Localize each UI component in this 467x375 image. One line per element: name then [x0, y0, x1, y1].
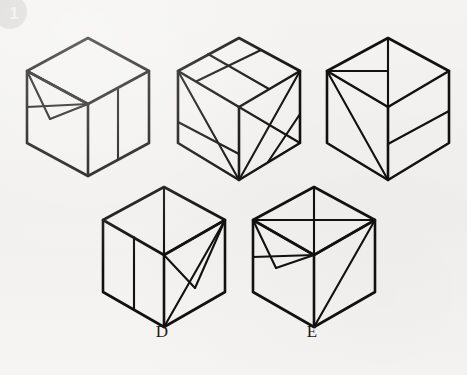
figure-canvas: 1: [0, 0, 467, 375]
cube-c-right-band: [388, 111, 449, 144]
cube-b-left-diagonal: [178, 71, 239, 180]
cube-d-right-triangle-base: [164, 255, 195, 288]
cube-e-left-lower-diagonal: [253, 255, 314, 257]
cube-b-right-diagonal-2: [239, 107, 300, 143]
cube-a[interactable]: [22, 32, 154, 182]
cube-d[interactable]: [98, 182, 230, 332]
label-e: E: [297, 322, 327, 342]
cube-e[interactable]: [248, 182, 380, 332]
cube-a-left-diagonal: [27, 71, 88, 104]
cube-b[interactable]: [172, 32, 306, 186]
cube-d-right-triangle-2: [195, 220, 225, 288]
cube-c[interactable]: [322, 32, 454, 186]
cube-c-left-diagonal: [327, 71, 388, 180]
question-number-badge: 1: [0, 0, 27, 29]
cube-c-top-right-edge: [388, 71, 449, 107]
label-d: D: [147, 322, 177, 342]
question-number-text: 1: [9, 4, 18, 24]
